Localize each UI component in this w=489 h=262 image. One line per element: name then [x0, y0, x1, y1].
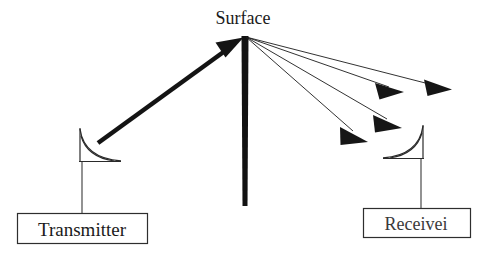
transmitter-label: Transmitter — [38, 219, 127, 240]
receiver-label: Receivei — [385, 214, 448, 234]
diagram-canvas: Surface — [0, 0, 489, 262]
receiver-box: Receivei — [364, 209, 471, 238]
surface-bar — [242, 36, 249, 206]
scattering-diagram: Surface — [0, 0, 489, 262]
transmitter-box: Transmitter — [18, 214, 148, 244]
surface-label: Surface — [216, 8, 271, 28]
